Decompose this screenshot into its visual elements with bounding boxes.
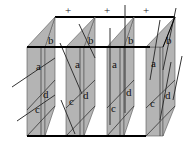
panel-2-label-d: d [83, 89, 89, 101]
panel-3-label-d: d [126, 86, 132, 98]
slab-diagram: + + + b a d c b a d c [0, 0, 184, 149]
panel-4-label-d: d [165, 89, 171, 101]
panel-4-label-a: a [151, 57, 156, 69]
panel-4: b a d c [146, 8, 182, 136]
panel-1-label-d: d [43, 88, 49, 100]
panel-4-label-b: b [166, 34, 172, 46]
panel-2-label-b: b [88, 34, 94, 46]
panel-3-label-a: a [112, 58, 117, 70]
panel-4-label-c: c [150, 97, 155, 109]
panel-1: b a d c [12, 17, 55, 136]
panel-2-label-c: c [69, 95, 74, 107]
panel-3-label-c: c [111, 102, 116, 114]
panel-3: b a d c [107, 5, 134, 136]
plus-marker-3: + [143, 4, 149, 16]
panel-2: b a d c [60, 17, 95, 136]
plus-marker-2: + [104, 4, 110, 16]
panel-1-label-c: c [35, 103, 40, 115]
panel-1-label-b: b [48, 34, 54, 46]
panel-2-label-a: a [75, 58, 80, 70]
panel-1-label-a: a [36, 60, 41, 72]
plus-marker-1: + [65, 4, 71, 16]
panel-3-label-b: b [128, 34, 134, 46]
